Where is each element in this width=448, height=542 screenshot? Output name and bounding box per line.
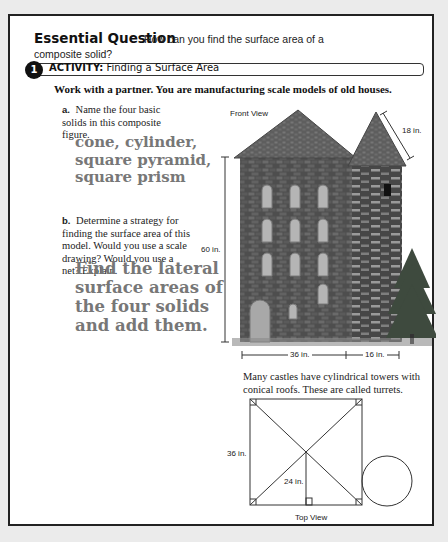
- top-view-side-label: 36 in.: [227, 449, 247, 458]
- turret-caption: Many castles have cylindrical towers wit…: [243, 370, 423, 396]
- castle-door: [250, 300, 270, 342]
- width-16-label: 16 in.: [363, 350, 387, 359]
- castle-front-view-illustration: [10, 16, 436, 528]
- top-view-title: Top View: [295, 513, 327, 522]
- top-view-diagram: [250, 399, 412, 506]
- front-view-label: Front View: [230, 109, 268, 118]
- height-60-label: 60 in.: [201, 245, 221, 254]
- worksheet-page: Essential Question How can you find the …: [8, 14, 434, 526]
- turret-window: [384, 184, 391, 196]
- slant-18-label: 18 in.: [402, 126, 422, 135]
- top-view-turret-circle: [362, 456, 412, 506]
- width-36-label: 36 in.: [288, 350, 312, 359]
- top-view-height-label: 24 in.: [284, 477, 304, 486]
- turret-cylinder: [352, 164, 402, 342]
- ground: [232, 338, 432, 346]
- turret-cone-roof: [348, 112, 406, 166]
